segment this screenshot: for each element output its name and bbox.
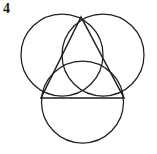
figure-canvas: 4	[0, 0, 157, 154]
geometry-diagram	[0, 0, 157, 154]
inscribed-triangle	[41, 17, 124, 98]
